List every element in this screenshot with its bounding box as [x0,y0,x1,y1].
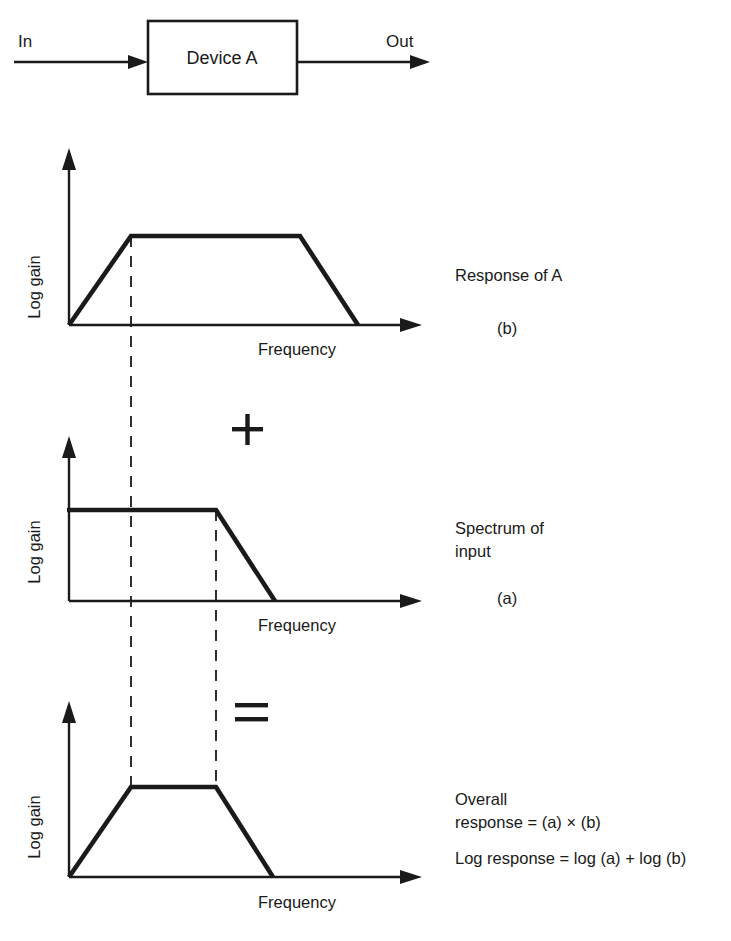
panel3-x-axis-label: Frequency [258,893,337,911]
panel2-y-axis-arrow-icon [62,436,76,458]
panel1-x-axis-label: Frequency [258,340,337,358]
equals-operator-icon [235,703,268,721]
panel2-tag: (a) [497,589,517,607]
panel3-y-axis-label: Log gain [25,795,43,858]
plus-vertical-bar [245,414,249,445]
equals-top-bar [235,703,268,707]
panel2-spectrum-curve [67,510,275,601]
output-label: Out [386,32,414,51]
panel2-axes [62,436,422,608]
output-arrow [297,55,430,69]
input-arrow-head-icon [128,55,148,69]
panel2-y-axis-label: Log gain [25,520,43,583]
panel1-y-axis-label: Log gain [25,255,43,318]
panel1-y-axis-arrow-icon [62,148,76,170]
panel3-caption-line2: response = (a) × (b) [455,813,601,831]
panel3-overall-curve [69,787,273,877]
panel-response-of-a: Log gain Frequency Response of A (b) [25,148,562,358]
panel3-y-axis-arrow-icon [62,701,76,723]
panel1-axes [62,148,422,332]
panel1-response-curve [69,236,358,325]
panel3-x-axis-arrow-icon [400,870,422,884]
panel1-tag: (b) [497,319,517,337]
panel3-axes [62,701,422,884]
equals-bottom-bar [235,717,268,721]
input-arrow [14,55,148,69]
panel-overall-response: Log gain Frequency Overall response = (a… [25,701,686,911]
panel1-caption: Response of A [455,266,562,284]
plus-operator-icon [232,414,263,445]
panel-spectrum-of-input: Log gain Frequency Spectrum of input (a) [25,436,544,634]
panel3-caption-line3: Log response = log (a) + log (b) [455,849,686,867]
panel1-x-axis-arrow-icon [400,318,422,332]
panel2-x-axis-arrow-icon [400,594,422,608]
figure-root: In Device A Out [0,0,731,941]
panel2-x-axis-label: Frequency [258,616,337,634]
panel3-caption-line1: Overall [455,790,507,808]
input-label: In [18,32,32,51]
device-label: Device A [186,48,257,68]
output-arrow-head-icon [410,55,430,69]
block-diagram: In Device A Out [14,21,430,94]
panel2-caption-line2: input [455,542,491,560]
signal-chain-figure: In Device A Out [0,0,731,941]
panel2-caption-line1: Spectrum of [455,519,544,537]
